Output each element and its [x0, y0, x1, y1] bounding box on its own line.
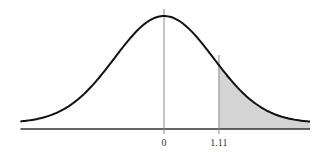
normal-curve-chart: 0 1.11 — [0, 0, 329, 154]
tick-label-zero: 0 — [162, 137, 167, 148]
normal-curve — [20, 16, 310, 122]
tick-label-z: 1.11 — [210, 137, 227, 148]
